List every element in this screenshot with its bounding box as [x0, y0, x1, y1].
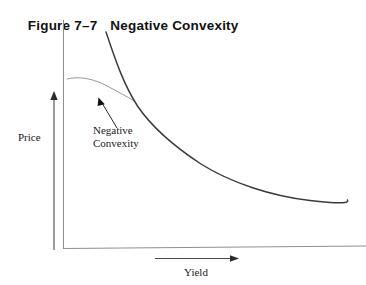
figure-container: Figure 7–7Negative Convexity Price Yield…: [0, 0, 366, 285]
annotation-line-2: Convexity: [93, 137, 139, 149]
yield-axis-arrowhead-icon: [230, 255, 239, 262]
x-axis-label: Yield: [184, 266, 208, 278]
y-axis-label: Price: [18, 131, 41, 143]
price-axis-arrowhead-icon: [50, 91, 57, 100]
price-yield-chart: Price Yield Negative Convexity: [0, 0, 366, 285]
price-yield-curve: [106, 32, 348, 203]
annotation-arrowhead-icon: [98, 98, 105, 106]
annotation-line-1: Negative: [93, 124, 133, 136]
plot-bottom-border: [63, 246, 366, 249]
